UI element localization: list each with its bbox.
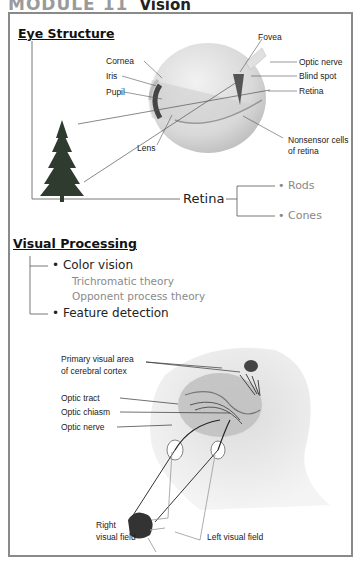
label-blind-spot: Blind spot: [299, 71, 336, 81]
visual-processing-heading: Visual Processing: [13, 236, 137, 251]
retina-node: Retina: [183, 191, 224, 206]
label-right-1: Right: [96, 520, 116, 530]
eye-structure-heading: Eye Structure: [18, 26, 114, 41]
opponent-process-theory: Opponent process theory: [72, 290, 205, 302]
label-fovea: Fovea: [258, 32, 282, 42]
label-nonsensor-2: of retina: [288, 146, 319, 156]
label-lens: Lens: [137, 143, 155, 153]
cones-node: • Cones: [278, 209, 322, 222]
label-nonsensor-1: Nonsensor cells: [288, 135, 348, 145]
label-retina: Retina: [299, 86, 324, 96]
diagram-artwork: [0, 0, 361, 566]
label-optic-nerve: Optic nerve: [299, 57, 342, 67]
tree-icon: [40, 120, 84, 202]
label-optic-chiasm: Optic chiasm: [61, 407, 110, 417]
label-iris: Iris: [106, 71, 117, 81]
trichromatic-theory: Trichromatic theory: [72, 275, 174, 287]
label-right-2: visual field: [96, 532, 136, 542]
label-pupil: Pupil: [106, 87, 125, 97]
color-vision-item: • Color vision: [52, 258, 133, 272]
rods-node: • Rods: [278, 179, 315, 192]
label-optic-nerve-brain: Optic nerve: [61, 422, 104, 432]
label-cornea: Cornea: [106, 56, 134, 66]
label-cerebral-cortex: of cerebral cortex: [61, 366, 127, 376]
feature-detection-item: • Feature detection: [52, 306, 169, 320]
label-left-visual-field: Left visual field: [207, 532, 263, 542]
label-primary-visual-area: Primary visual area: [61, 354, 134, 364]
label-optic-tract: Optic tract: [61, 393, 100, 403]
